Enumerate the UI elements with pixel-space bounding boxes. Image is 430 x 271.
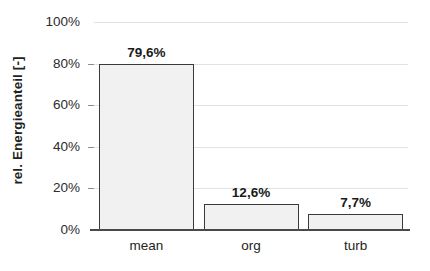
x-axis-category-labels: meanorgturb — [94, 238, 408, 262]
y-axis-tick-label: 0% — [28, 222, 80, 238]
y-axis-title: rel. Energieanteil [-] — [0, 0, 34, 240]
y-axis-tick-mark — [88, 188, 94, 189]
bar-value-label-org: 12,6% — [204, 185, 299, 200]
y-axis-title-text: rel. Energieanteil [-] — [10, 56, 25, 184]
y-axis-tick-label: 20% — [28, 180, 80, 196]
bar-org[interactable] — [204, 204, 299, 230]
y-axis-tick-mark — [88, 147, 94, 148]
y-axis-tick-mark — [88, 64, 94, 65]
y-axis-tick-label: 60% — [28, 97, 80, 113]
bar-value-label-mean: 79,6% — [99, 45, 194, 60]
y-axis-tick-label: 80% — [28, 56, 80, 72]
y-axis-tick-mark — [88, 105, 94, 106]
category-label-turb: turb — [303, 238, 408, 253]
gridline — [94, 22, 408, 23]
category-label-mean: mean — [94, 238, 199, 253]
bar-chart: rel. Energieanteil [-] 100%80%60%40%20%0… — [0, 0, 430, 271]
y-axis-tick-labels: 100%80%60%40%20%0% — [30, 14, 84, 238]
category-label-org: org — [199, 238, 304, 253]
x-axis-line — [90, 229, 410, 231]
plot-area: 79,6%12,6%7,7% — [94, 22, 408, 230]
bar-turb[interactable] — [308, 214, 403, 230]
bar-value-label-turb: 7,7% — [308, 195, 403, 210]
y-axis-tick-label: 100% — [28, 14, 80, 30]
y-axis-tick-label: 40% — [28, 139, 80, 155]
bar-mean[interactable] — [99, 64, 194, 230]
